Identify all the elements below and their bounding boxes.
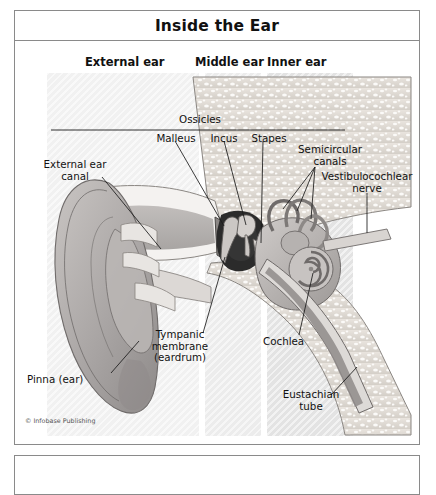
figure-card: Inside the Ear (14, 10, 420, 445)
callout-semicircular-canals: Semicircular canals (287, 144, 373, 167)
callout-vestibulocochlear-nerve: Vestibulocochlear nerve (311, 171, 423, 194)
callout-cochlea: Cochlea (263, 336, 304, 348)
copyright-credit: © Infobase Publishing (25, 417, 95, 425)
ossicle-label-malleus: Malleus (148, 133, 204, 145)
ossicles-group-label: Ossicles (165, 114, 235, 126)
callout-external-ear-canal: External ear canal (31, 159, 119, 182)
region-label-external-ear: External ear (85, 55, 164, 69)
ossicle-label-incus: Incus (200, 133, 248, 145)
callout-tympanic-membrane: Tympanic membrane (eardrum) (141, 329, 219, 364)
ossicle-label-stapes: Stapes (243, 133, 295, 145)
region-label-inner-ear: Inner ear (267, 55, 326, 69)
callout-pinna: Pinna (ear) (27, 374, 83, 386)
callout-eustachian-tube: Eustachian tube (273, 389, 349, 412)
region-label-middle-ear: Middle ear (195, 55, 264, 69)
next-figure-card (14, 455, 420, 495)
